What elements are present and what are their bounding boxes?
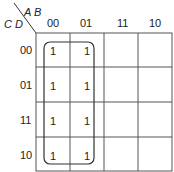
col-variables-label: A B	[24, 6, 41, 18]
row-header-11: 11	[20, 115, 31, 126]
row-header-00: 00	[20, 45, 32, 56]
row-variables-label: C D	[4, 18, 23, 30]
cell-10-01: 1	[84, 151, 90, 162]
cell-01-01: 1	[84, 81, 90, 92]
cell-01-00: 1	[50, 81, 56, 92]
cell-00-00: 1	[50, 46, 56, 57]
cell-00-01: 1	[84, 46, 90, 57]
col-header-01: 01	[80, 18, 92, 29]
cell-11-01: 1	[84, 116, 90, 127]
col-header-10: 10	[149, 18, 161, 29]
cell-11-00: 1	[50, 116, 56, 127]
group-loop	[44, 42, 94, 164]
cell-10-00: 1	[50, 151, 56, 162]
col-header-11: 11	[117, 18, 128, 29]
row-header-10: 10	[20, 150, 32, 161]
col-header-00: 00	[47, 18, 59, 29]
row-header-01: 01	[20, 80, 32, 91]
